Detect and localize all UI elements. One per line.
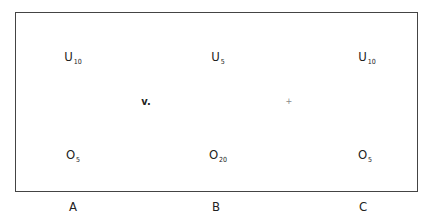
cell-subscript: 5 bbox=[76, 156, 80, 164]
cell-base: U bbox=[211, 49, 220, 64]
cell-a-bottom: O5 bbox=[66, 148, 80, 164]
column-label-c: C bbox=[359, 199, 367, 214]
cell-base: O bbox=[358, 147, 367, 162]
cell-subscript: 5 bbox=[368, 156, 372, 164]
cell-a-top: U10 bbox=[64, 50, 82, 66]
cell-b-bottom: O20 bbox=[209, 148, 227, 164]
cell-subscript: 20 bbox=[219, 156, 227, 164]
cell-c-bottom: O5 bbox=[358, 148, 372, 164]
column-label-b: B bbox=[212, 199, 220, 214]
column-label-a: A bbox=[69, 199, 77, 214]
cell-base: O bbox=[209, 147, 218, 162]
cell-base: U bbox=[64, 49, 73, 64]
cell-subscript: 10 bbox=[368, 58, 376, 66]
diagram-frame bbox=[15, 12, 418, 192]
cell-subscript: 10 bbox=[74, 58, 82, 66]
cell-subscript: 5 bbox=[221, 58, 225, 66]
cell-base: O bbox=[66, 147, 75, 162]
plus-icon: + bbox=[286, 97, 293, 106]
cell-c-top: U10 bbox=[358, 50, 376, 66]
cell-base: U bbox=[358, 49, 367, 64]
versus-symbol: v. bbox=[141, 96, 150, 107]
cell-b-top: U5 bbox=[211, 50, 225, 66]
